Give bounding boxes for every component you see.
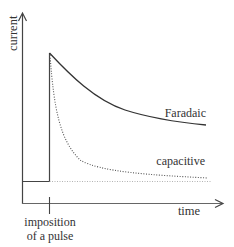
capacitive-label: capacitive [156,154,205,168]
y-axis-label: current [6,15,20,51]
pulse-label-line1: imposition [24,215,75,229]
x-axis-label: time [178,204,201,218]
pulse-label-line2: of a pulse [27,229,74,243]
pulse-step [23,53,50,182]
faradaic-label: Faradaic [165,106,206,120]
current-time-diagram: current time Faradaic capacitive imposit… [0,0,234,247]
